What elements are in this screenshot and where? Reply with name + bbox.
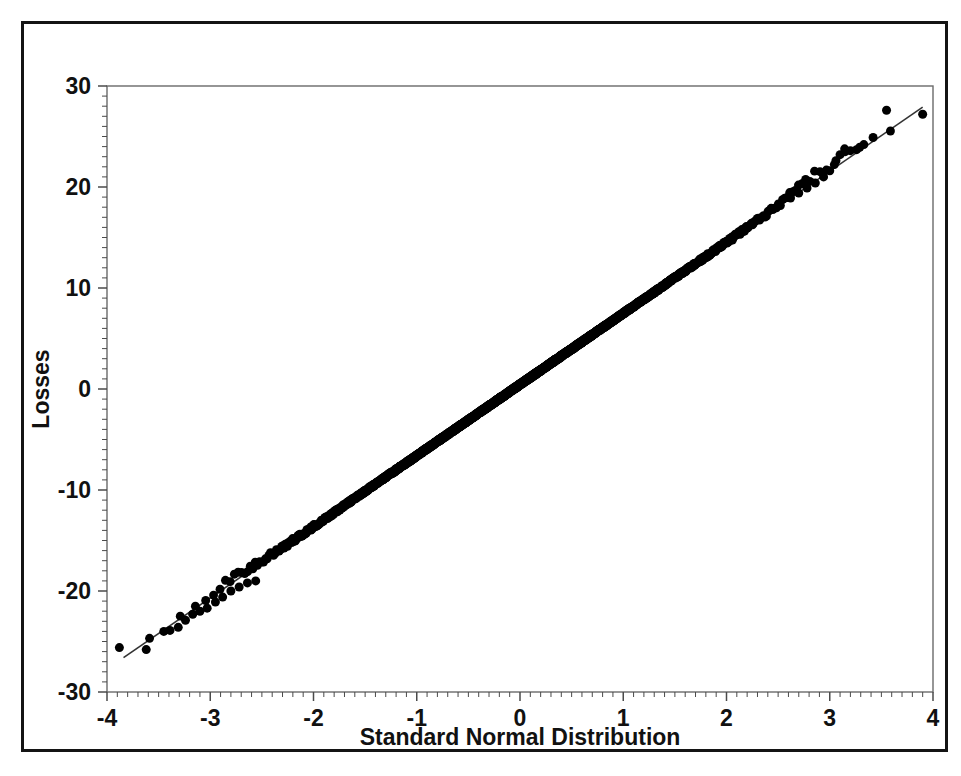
plot-canvas: -4-3-2-101234 3020100-10-20-30 Standard … [0, 0, 961, 776]
y-axis-ticks [98, 86, 107, 692]
scatter-point [218, 593, 227, 602]
x-tick-label: -2 [303, 705, 323, 731]
y-tick-label: 0 [78, 376, 91, 402]
scatter-point [811, 178, 820, 187]
scatter-point [235, 582, 244, 591]
x-axis-title: Standard Normal Distribution [360, 724, 681, 750]
scatter-point [165, 626, 174, 635]
scatter-point [142, 645, 151, 654]
y-tick-label: -20 [58, 578, 91, 604]
x-tick-label: 3 [823, 705, 836, 731]
scatter-point [918, 110, 927, 119]
x-axis-ticks [107, 692, 933, 701]
x-tick-label: -3 [200, 705, 220, 731]
scatter-point [251, 576, 260, 585]
y-axis-tick-labels: 3020100-10-20-30 [58, 73, 91, 705]
scatter-point [115, 643, 124, 652]
scatter-point [886, 127, 895, 136]
x-tick-label: -4 [97, 705, 118, 731]
y-tick-label: -30 [58, 679, 91, 705]
scatter-point [859, 140, 868, 149]
qq-plot-figure: -4-3-2-101234 3020100-10-20-30 Standard … [0, 0, 961, 776]
scatter-point [786, 194, 795, 203]
scatter-point [203, 604, 212, 613]
scatter-point [201, 596, 210, 605]
x-tick-label: 2 [720, 705, 733, 731]
x-tick-label: 4 [927, 705, 940, 731]
y-tick-label: -10 [58, 477, 91, 503]
y-tick-label: 10 [65, 275, 91, 301]
y-tick-label: 20 [65, 174, 91, 200]
scatter-point [869, 133, 878, 142]
scatter-point [803, 184, 812, 193]
y-tick-label: 30 [65, 73, 91, 99]
scatter-point [145, 634, 154, 643]
scatter-point [181, 616, 190, 625]
scatter-point [825, 166, 834, 175]
scatter-point [174, 623, 183, 632]
scatter-point [882, 106, 891, 115]
y-axis-title: Losses [28, 349, 54, 428]
scatter-point [226, 587, 235, 596]
scatter-point [794, 189, 803, 198]
scatter-point [243, 578, 252, 587]
scatter-point [216, 585, 225, 594]
